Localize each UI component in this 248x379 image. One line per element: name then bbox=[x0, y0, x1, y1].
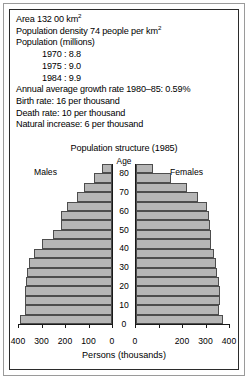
age-tick-label: 0 bbox=[112, 320, 136, 329]
stat-line-population-1975: 1975 : 9.0 bbox=[16, 61, 234, 73]
age-tick-label: 10 bbox=[112, 301, 136, 310]
superscript-density: 2 bbox=[158, 24, 161, 31]
population-pyramid-plot: 01020304050607080 bbox=[18, 164, 230, 334]
x-tick-mark bbox=[65, 324, 66, 328]
x-tick-label-females: 0 bbox=[133, 336, 138, 346]
superscript-area: 2 bbox=[78, 12, 81, 19]
x-tick-mark bbox=[229, 324, 230, 328]
stat-text-density: Population density 74 people per km bbox=[16, 26, 158, 36]
age-tick-labels-group: 01020304050607080 bbox=[18, 164, 230, 324]
x-tick-label-males: 400 bbox=[11, 336, 25, 346]
x-tick-label-females: 400 bbox=[222, 336, 236, 346]
x-tick-mark bbox=[18, 324, 19, 328]
age-tick-label: 60 bbox=[112, 207, 136, 216]
age-tick-label: 40 bbox=[112, 244, 136, 253]
x-tick-label-males: 100 bbox=[81, 336, 95, 346]
stat-line-population-1970: 1970 : 8.8 bbox=[16, 49, 234, 61]
x-tick-label-males: 300 bbox=[34, 336, 48, 346]
age-tick-label: 20 bbox=[112, 282, 136, 291]
x-tick-label-males: 0 bbox=[110, 336, 115, 346]
age-tick-label: 30 bbox=[112, 263, 136, 272]
x-tick-mark bbox=[89, 324, 90, 328]
stat-line-density: Population density 74 people per km2 bbox=[16, 26, 234, 38]
age-tick-label: 50 bbox=[112, 226, 136, 235]
population-info-panel: Area 132 00 km2 Population density 74 pe… bbox=[0, 0, 248, 379]
x-axis-title: Persons (thousands) bbox=[0, 350, 248, 360]
age-tick-label: 80 bbox=[112, 169, 136, 178]
x-tick-mark bbox=[182, 324, 183, 328]
x-tick-mark bbox=[135, 324, 136, 328]
x-tick-mark bbox=[159, 324, 160, 328]
age-tick-label: 70 bbox=[112, 188, 136, 197]
x-tick-mark bbox=[206, 324, 207, 328]
stat-line-birth-rate: Birth rate: 16 per thousand bbox=[16, 96, 234, 108]
stat-line-population-1984: 1984 : 9.9 bbox=[16, 73, 234, 85]
stat-line-population-heading: Population (millions) bbox=[16, 37, 234, 49]
chart-title: Population structure (1985) bbox=[0, 143, 248, 153]
stat-line-death-rate: Death rate: 10 per thousand bbox=[16, 108, 234, 120]
stat-line-natural-increase: Natural increase: 6 per thousand bbox=[16, 119, 234, 131]
x-tick-label-females: 200 bbox=[175, 336, 189, 346]
stat-text-area: Area 132 00 km bbox=[16, 14, 78, 24]
x-axis-tick-labels: 00100200200300300400400 bbox=[10, 336, 238, 348]
stat-line-growth-rate: Annual average growth rate 1980–85: 0.59… bbox=[16, 84, 234, 96]
statistics-block: Area 132 00 km2 Population density 74 pe… bbox=[16, 14, 234, 131]
x-tick-mark bbox=[42, 324, 43, 328]
x-tick-mark bbox=[112, 324, 113, 328]
x-tick-label-females: 300 bbox=[198, 336, 212, 346]
stat-line-area: Area 132 00 km2 bbox=[16, 14, 234, 26]
x-tick-label-males: 200 bbox=[58, 336, 72, 346]
